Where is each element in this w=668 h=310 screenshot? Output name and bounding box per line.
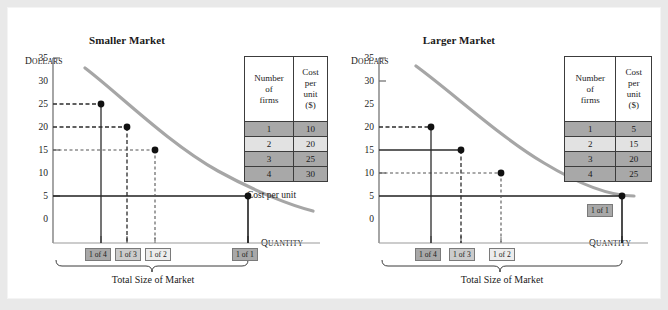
hdr-line-firms: firms xyxy=(251,95,287,106)
table-row: 4 25 xyxy=(565,167,652,182)
x-box-label-1of1: 1 of 1 xyxy=(587,204,613,217)
hdr-line-number: Number xyxy=(571,73,609,84)
data-point-1of4 xyxy=(98,101,105,108)
table-row: 2 20 xyxy=(245,137,328,152)
table-row: 3 25 xyxy=(245,152,328,167)
market-size-label: Total Size of Market xyxy=(416,274,588,285)
cell-firms: 2 xyxy=(565,137,616,152)
cell-cost: 30 xyxy=(293,167,327,182)
x-box-label-1of2: 1 of 2 xyxy=(489,248,515,261)
cell-firms: 2 xyxy=(245,137,294,152)
market-size-brace xyxy=(56,260,248,272)
x-box-label-1of3: 1 of 3 xyxy=(115,248,141,261)
hdr-line-number: Number xyxy=(251,73,287,84)
table-header-cost-per-unit: Cost per unit ($) xyxy=(293,57,327,122)
table-row: 1 10 xyxy=(245,122,328,137)
data-point-1of1 xyxy=(619,193,626,200)
hdr-line-per: per xyxy=(622,78,645,89)
x-box-label-1of2: 1 of 2 xyxy=(145,248,171,261)
cell-cost: 5 xyxy=(616,122,652,137)
data-point-1of2 xyxy=(152,147,159,154)
cell-firms: 3 xyxy=(565,152,616,167)
table-row: 1 5 xyxy=(565,122,652,137)
table-header-row: Number of firms Cost per unit ($) xyxy=(565,57,652,122)
table-row: 4 30 xyxy=(245,167,328,182)
data-table-smaller-market: Number of firms Cost per unit ($) 1 10 2… xyxy=(244,56,328,182)
hdr-line-unit: unit xyxy=(300,89,321,100)
cell-cost: 20 xyxy=(616,152,652,167)
data-table-larger-market: Number of firms Cost per unit ($) 1 5 2 … xyxy=(564,56,652,182)
cell-cost: 20 xyxy=(293,137,327,152)
data-point-1of3 xyxy=(458,147,465,154)
data-point-1of4 xyxy=(428,124,435,131)
cell-firms: 1 xyxy=(565,122,616,137)
market-size-brace xyxy=(382,260,622,272)
x-box-label-1of1: 1 of 1 xyxy=(232,248,258,261)
table-header-cost-per-unit: Cost per unit ($) xyxy=(616,57,652,122)
data-point-1of3 xyxy=(124,124,131,131)
x-box-label-1of4: 1 of 4 xyxy=(85,248,111,261)
cell-cost: 25 xyxy=(616,167,652,182)
table-row: 3 20 xyxy=(565,152,652,167)
panel-larger-market: Larger Market DOLLARS QUANTITY 35 30 25 … xyxy=(334,8,660,298)
figure-container: Smaller Market DOLLARS QUANTITY 35 30 25… xyxy=(8,8,660,298)
table-row: 2 15 xyxy=(565,137,652,152)
curve-label-cost-per-unit: Cost per unit xyxy=(247,190,296,200)
data-point-1of2 xyxy=(498,170,505,177)
hdr-line-cost: Cost xyxy=(300,67,321,78)
table-header-number-of-firms: Number of firms xyxy=(245,57,294,122)
x-box-label-1of3: 1 of 3 xyxy=(449,248,475,261)
x-box-label-1of4: 1 of 4 xyxy=(415,248,441,261)
hdr-line-unit: unit xyxy=(622,89,645,100)
hdr-line-dollars: ($) xyxy=(300,100,321,111)
hdr-line-of: of xyxy=(251,84,287,95)
panel-smaller-market: Smaller Market DOLLARS QUANTITY 35 30 25… xyxy=(8,8,334,298)
hdr-line-cost: Cost xyxy=(622,67,645,78)
cell-cost: 25 xyxy=(293,152,327,167)
hdr-line-per: per xyxy=(300,78,321,89)
hdr-line-dollars: ($) xyxy=(622,100,645,111)
cell-cost: 15 xyxy=(616,137,652,152)
table-header-row: Number of firms Cost per unit ($) xyxy=(245,57,328,122)
table-header-number-of-firms: Number of firms xyxy=(565,57,616,122)
cell-cost: 10 xyxy=(293,122,327,137)
cell-firms: 4 xyxy=(565,167,616,182)
hdr-line-of: of xyxy=(571,84,609,95)
cell-firms: 1 xyxy=(245,122,294,137)
cell-firms: 3 xyxy=(245,152,294,167)
hdr-line-firms: firms xyxy=(571,95,609,106)
market-size-label: Total Size of Market xyxy=(68,274,238,285)
cell-firms: 4 xyxy=(245,167,294,182)
